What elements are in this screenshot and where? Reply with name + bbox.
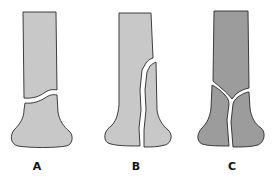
bone-c-left-condyle [198, 85, 229, 146]
bone-a-shaft-fragment [23, 12, 57, 98]
bone-b [105, 13, 171, 147]
panel-label-a: A [33, 161, 42, 172]
bone-c [198, 11, 264, 147]
panel-label-c: C [228, 161, 236, 172]
bone-c-right-condyle [231, 92, 264, 147]
bone-c-shaft-fragment [213, 11, 249, 99]
panel-label-b: B [132, 161, 140, 172]
bone-b-articular-fragment [144, 62, 171, 147]
bone-a [11, 12, 72, 148]
bone-a-distal-fragment [11, 95, 72, 148]
fracture-diagram [0, 0, 279, 182]
